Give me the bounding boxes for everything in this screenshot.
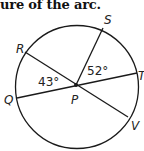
- circle-diagram: R S T Q V P 43° 52°: [0, 0, 144, 151]
- circle: [16, 26, 139, 149]
- angle-43-label: 43°: [38, 75, 59, 89]
- label-q: Q: [4, 93, 13, 107]
- label-v: V: [131, 119, 140, 133]
- label-t: T: [138, 69, 144, 83]
- label-s: S: [104, 13, 112, 27]
- angle-52-label: 52°: [87, 64, 108, 78]
- label-p: P: [71, 93, 79, 107]
- center-point: [74, 83, 78, 87]
- label-r: R: [16, 42, 24, 56]
